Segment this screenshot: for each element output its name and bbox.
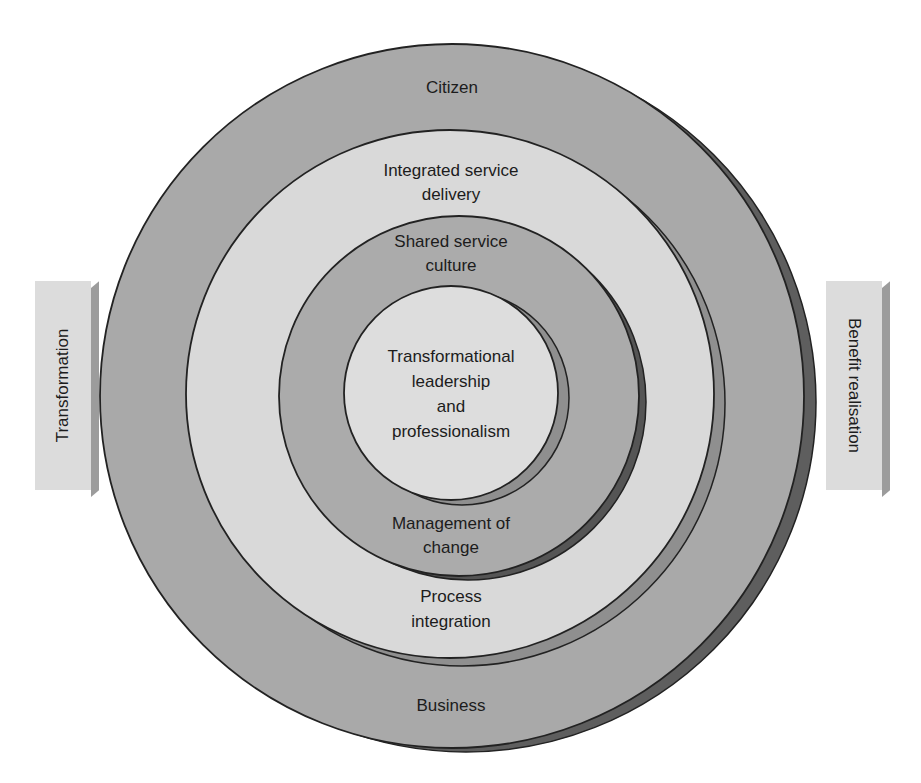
second-ring-bottom-label-line2: integration xyxy=(411,612,490,631)
concentric-diagram: Citizen Business Integrated service deli… xyxy=(0,0,921,783)
core-label-line3: and xyxy=(437,397,465,416)
outer-ring-top-label: Citizen xyxy=(426,78,478,97)
benefit-realisation-panel: Benefit realisation xyxy=(826,281,882,490)
outer-ring-bottom-label: Business xyxy=(417,696,486,715)
transformation-panel: Transformation xyxy=(35,281,91,490)
core-label-line2: leadership xyxy=(412,372,490,391)
core-circle xyxy=(344,286,558,500)
second-ring-bottom-label-line1: Process xyxy=(420,587,481,606)
benefit-realisation-label: Benefit realisation xyxy=(826,281,882,490)
second-ring-top-label-line2: delivery xyxy=(422,185,481,204)
third-ring-bottom-label-line1: Management of xyxy=(392,514,510,533)
core-label-line4: professionalism xyxy=(392,422,510,441)
transformation-label: Transformation xyxy=(35,281,91,490)
third-ring-bottom-label-line2: change xyxy=(423,538,479,557)
core-label-line1: Transformational xyxy=(388,347,515,366)
second-ring-top-label-line1: Integrated service xyxy=(383,161,518,180)
third-ring-top-label-line2: culture xyxy=(425,256,476,275)
panel-edge xyxy=(91,281,99,497)
panel-edge xyxy=(882,281,890,497)
third-ring-top-label-line1: Shared service xyxy=(394,232,507,251)
